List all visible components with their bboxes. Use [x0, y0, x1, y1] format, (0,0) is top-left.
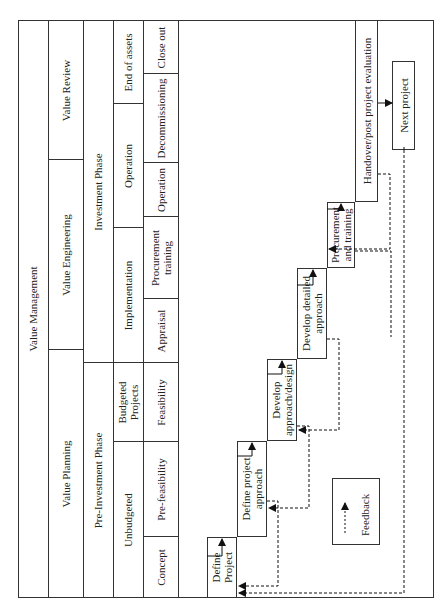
connector-arrows [0, 0, 445, 611]
value-management-diagram: Value Management Value Planning Value En… [0, 0, 445, 611]
feedback-arrows [239, 145, 404, 593]
forward-arrows [207, 103, 392, 556]
